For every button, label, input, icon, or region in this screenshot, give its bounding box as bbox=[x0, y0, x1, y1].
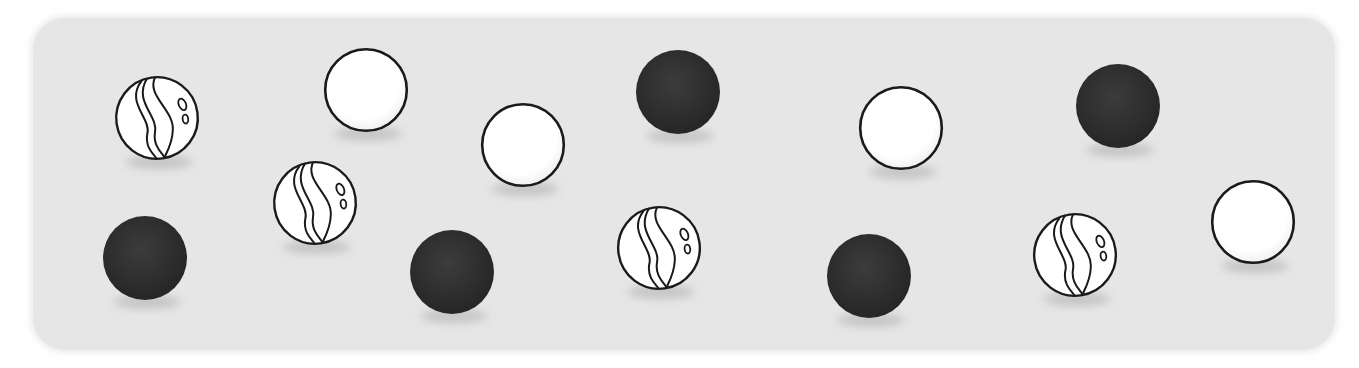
marble-black bbox=[410, 230, 494, 323]
marble-black bbox=[827, 234, 911, 327]
marble-white bbox=[325, 49, 407, 141]
marble-striped bbox=[269, 157, 361, 254]
marble-black bbox=[1076, 64, 1160, 157]
marble-white bbox=[1212, 181, 1294, 273]
marble-white bbox=[860, 87, 942, 179]
marble-striped bbox=[111, 72, 203, 169]
marble-black bbox=[636, 50, 720, 143]
marble-scene bbox=[0, 0, 1359, 368]
marble-black bbox=[103, 216, 187, 309]
marble-striped bbox=[613, 202, 705, 299]
marble-white bbox=[482, 104, 564, 196]
marble-striped bbox=[1029, 209, 1121, 306]
